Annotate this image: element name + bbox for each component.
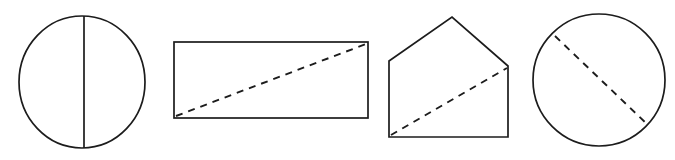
circle-outline xyxy=(19,16,145,148)
figures-canvas xyxy=(0,0,675,160)
figure-circle-with-vertical-diameter xyxy=(19,16,145,148)
figure-circle-with-dashed-chord xyxy=(533,14,665,146)
pentagon-outline xyxy=(389,17,508,137)
figure-rectangle-with-dashed-diagonal xyxy=(174,42,368,118)
circle-outline-2 xyxy=(533,14,665,146)
figure-pentagon-with-dashed-diagonal xyxy=(389,17,508,137)
figure-sheet xyxy=(0,0,675,160)
